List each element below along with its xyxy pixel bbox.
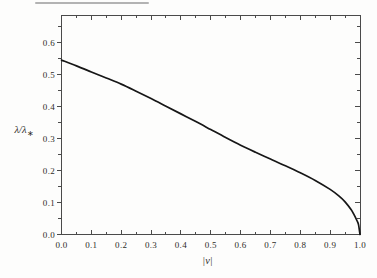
x-tick-label: 0.5 — [205, 240, 217, 250]
plot-area: 0.00.10.20.30.40.50.60.70.80.91.00.00.10… — [0, 0, 377, 278]
x-tick-label: 0.7 — [264, 240, 276, 250]
y-axis-label-text: λ/λ — [14, 124, 26, 135]
y-tick-label: 0.0 — [43, 230, 55, 240]
y-tick-label: 0.2 — [43, 166, 55, 176]
y-axis-label-subscript: ∗ — [27, 129, 34, 138]
plot-frame — [62, 15, 361, 235]
x-tick-label: 0.6 — [235, 240, 247, 250]
data-curve — [62, 60, 361, 234]
x-tick-label: 0.4 — [175, 240, 187, 250]
x-tick-label: 1.0 — [354, 240, 366, 250]
y-tick-label: 0.6 — [43, 38, 55, 48]
y-tick-label: 0.4 — [43, 102, 55, 112]
x-tick-label: 0.9 — [324, 240, 336, 250]
x-axis-label: |ν| — [192, 254, 223, 267]
y-axis-label: λ/λ∗ — [4, 123, 44, 141]
x-tick-label: 0.8 — [294, 240, 306, 250]
x-tick-label: 0.3 — [145, 240, 157, 250]
x-tick-label: 0.1 — [85, 240, 97, 250]
x-tick-label: 0.0 — [55, 240, 67, 250]
y-tick-label: 0.1 — [43, 198, 55, 208]
y-tick-label: 0.3 — [43, 134, 55, 144]
y-tick-label: 0.5 — [43, 70, 55, 80]
x-tick-label: 0.2 — [115, 240, 127, 250]
figure: 0.00.10.20.30.40.50.60.70.80.91.00.00.10… — [0, 0, 377, 278]
